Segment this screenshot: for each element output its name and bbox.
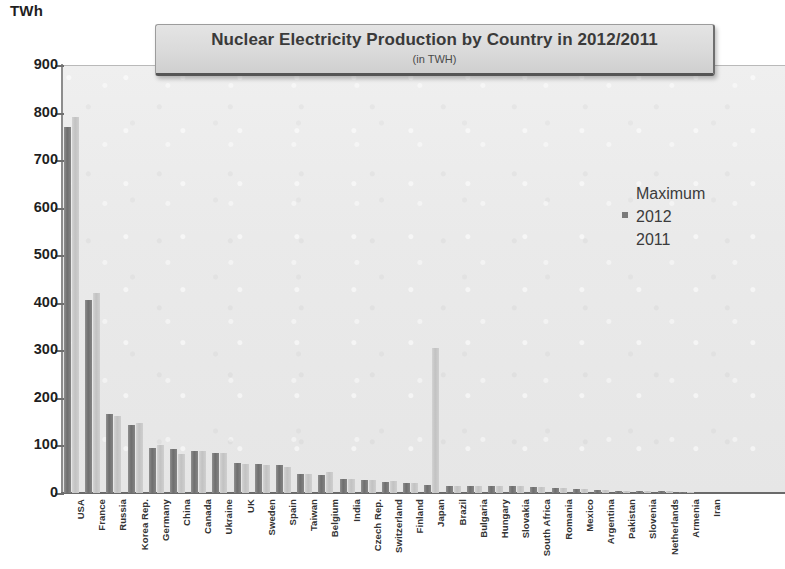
legend-label-2011: 2011 xyxy=(636,231,670,248)
bar-2011 xyxy=(242,464,249,493)
bar-2012 xyxy=(552,488,559,493)
bar-2011 xyxy=(178,454,185,493)
y-axis-unit-label: TWh xyxy=(10,2,43,19)
x-tick-label: Sweden xyxy=(266,499,277,536)
bar-2011 xyxy=(475,486,482,493)
bar-2012 xyxy=(403,483,410,493)
bar-2012 xyxy=(382,482,389,493)
x-tick-label: China xyxy=(181,499,192,526)
x-tick-label: Belgium xyxy=(329,499,340,537)
bar-2011 xyxy=(263,465,270,493)
bar-2012 xyxy=(658,491,665,493)
bar-2012 xyxy=(467,486,474,493)
bar-group xyxy=(84,65,104,493)
y-tick-label-200: 200 xyxy=(12,389,58,405)
x-tick-label: USA xyxy=(75,499,86,519)
bar-2012 xyxy=(212,453,219,493)
x-tick-label: Finland xyxy=(414,499,425,533)
y-tick-label-700: 700 xyxy=(12,151,58,167)
bar-2012 xyxy=(340,479,347,493)
bar-2011 xyxy=(411,483,418,493)
bar-2011 xyxy=(666,491,673,493)
bar-2012 xyxy=(255,464,262,493)
bar-2011 xyxy=(114,416,121,493)
x-tick-label: Hungary xyxy=(499,499,510,538)
bar-group xyxy=(466,65,486,493)
bar-2011 xyxy=(93,293,100,493)
bar-2012 xyxy=(149,448,156,493)
bar-2012 xyxy=(128,425,135,493)
bar-2011 xyxy=(369,480,376,493)
bar-group xyxy=(614,65,634,493)
x-tick-label: Slovenia xyxy=(647,499,658,539)
bar-group xyxy=(487,65,507,493)
bar-2012 xyxy=(170,449,177,493)
bar-group xyxy=(508,65,528,493)
bar-2011 xyxy=(454,486,461,493)
y-tick-label-500: 500 xyxy=(12,246,58,262)
bar-2012 xyxy=(509,486,516,493)
bar-2012 xyxy=(361,480,368,493)
bar-group xyxy=(360,65,380,493)
bar-group xyxy=(529,65,549,493)
x-tick-label: Taiwan xyxy=(308,499,319,531)
bar-2012 xyxy=(297,474,304,493)
bar-group xyxy=(254,65,274,493)
bar-group xyxy=(402,65,422,493)
bar-2012 xyxy=(488,486,495,493)
bar-group xyxy=(657,65,677,493)
bar-group xyxy=(381,65,401,493)
bar-group xyxy=(127,65,147,493)
bar-2012 xyxy=(276,465,283,493)
bar-group xyxy=(339,65,359,493)
bar-2011 xyxy=(623,491,630,493)
bar-group xyxy=(317,65,337,493)
bar-2012 xyxy=(636,491,643,493)
bar-2012 xyxy=(85,300,92,493)
bar-2012 xyxy=(234,463,241,493)
bar-2011 xyxy=(602,490,609,493)
chart-title-box: Nuclear Electricity Production by Countr… xyxy=(155,24,715,76)
bar-group xyxy=(445,65,465,493)
bar-group xyxy=(572,65,592,493)
bar-2011 xyxy=(644,491,651,493)
bar-2012 xyxy=(679,492,686,493)
bar-2011 xyxy=(496,486,503,493)
x-tick-label: Czech Rep. xyxy=(372,499,383,551)
bar-group xyxy=(169,65,189,493)
x-tick-label: Armenia xyxy=(690,499,701,538)
x-tick-label: Bulgaria xyxy=(478,499,489,538)
legend-item-2011: 2011 xyxy=(622,228,705,251)
bar-2011 xyxy=(390,481,397,493)
bar-group xyxy=(593,65,613,493)
x-tick-label: Iran xyxy=(711,499,722,517)
bar-2011 xyxy=(581,489,588,493)
legend-swatch-icon xyxy=(622,212,628,218)
x-tick-label: South Africa xyxy=(541,499,552,556)
y-tick-label-900: 900 xyxy=(12,56,58,72)
bar-group xyxy=(63,65,83,493)
y-tick-label-400: 400 xyxy=(12,294,58,310)
chart-figure: TWh 0100200300400500600700800900 USAFran… xyxy=(0,0,785,569)
bar-2011 xyxy=(199,451,206,493)
bar-group xyxy=(296,65,316,493)
bar-2011 xyxy=(687,492,694,493)
y-tick-label-600: 600 xyxy=(12,199,58,215)
bar-2012 xyxy=(573,489,580,493)
legend-title: Maximum xyxy=(636,182,705,205)
bar-2011 xyxy=(432,348,439,493)
bar-2011 xyxy=(220,453,227,493)
bar-group xyxy=(148,65,168,493)
bar-2012 xyxy=(615,491,622,493)
bar-2011 xyxy=(284,467,291,493)
bar-2012 xyxy=(64,127,71,493)
y-tick-label-100: 100 xyxy=(12,436,58,452)
x-tick-label: Germany xyxy=(160,499,171,541)
x-tick-label: Spain xyxy=(287,499,298,525)
bar-2012 xyxy=(424,485,431,493)
bar-group xyxy=(211,65,231,493)
bar-2012 xyxy=(530,487,537,493)
bar-group xyxy=(233,65,253,493)
bar-2011 xyxy=(157,445,164,494)
x-tick-label: UK xyxy=(245,499,256,513)
